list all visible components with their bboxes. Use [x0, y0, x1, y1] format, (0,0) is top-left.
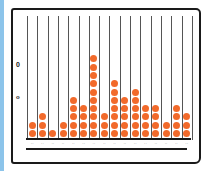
grid-line [182, 16, 183, 140]
data-dot [132, 105, 139, 112]
grid-line [151, 16, 152, 140]
grid-line [37, 16, 38, 140]
data-dot [29, 130, 36, 137]
data-dot [173, 130, 180, 137]
data-dot [90, 89, 97, 96]
grid-line [68, 16, 69, 140]
data-dot [183, 122, 190, 129]
grid-line [161, 16, 162, 140]
data-dot [101, 122, 108, 129]
data-dot [70, 130, 77, 137]
x-tick-label: ·· [59, 141, 68, 147]
data-dot [152, 122, 159, 129]
data-dot [60, 130, 67, 137]
y-axis-mark-upper: 0 [16, 61, 20, 68]
data-dot [70, 122, 77, 129]
x-tick-label: ·· [162, 141, 171, 147]
x-tick-label: ·· [89, 141, 98, 147]
data-dot [142, 122, 149, 129]
x-tick-label: ·· [131, 141, 140, 147]
data-dot [60, 122, 67, 129]
grid-line [171, 16, 172, 140]
data-dot [70, 97, 77, 104]
data-dot [132, 130, 139, 137]
data-dot [163, 122, 170, 129]
data-dot [111, 130, 118, 137]
x-tick-label: ·· [28, 141, 37, 147]
data-dot [111, 122, 118, 129]
grid-line [79, 16, 80, 140]
x-axis-baseline [26, 138, 191, 140]
x-tick-label: ·· [100, 141, 109, 147]
grid-line [120, 16, 121, 140]
grid-line [99, 16, 100, 140]
data-dot [111, 89, 118, 96]
data-dot [173, 105, 180, 112]
x-tick-label: ·· [69, 141, 78, 147]
data-dot [132, 89, 139, 96]
data-dot [142, 105, 149, 112]
grid-line [109, 16, 110, 140]
data-dot [163, 130, 170, 137]
grid-line [140, 16, 141, 140]
data-dot [39, 130, 46, 137]
data-dot [80, 122, 87, 129]
data-dot [39, 122, 46, 129]
x-tick-label: ·· [172, 141, 181, 147]
data-dot [70, 105, 77, 112]
grid-line [192, 16, 193, 140]
data-dot [29, 122, 36, 129]
x-tick-label: ·· [110, 141, 119, 147]
grid-line [58, 16, 59, 140]
x-tick-label: ·· [38, 141, 47, 147]
label-row-bottom-line [26, 148, 187, 150]
data-dot [132, 97, 139, 104]
x-tick-label: ·· [151, 141, 160, 147]
grid-line [27, 16, 28, 140]
data-dot [173, 122, 180, 129]
grid-line [130, 16, 131, 140]
x-tick-label: ·· [79, 141, 88, 147]
x-tick-label: ·· [182, 141, 191, 147]
x-tick-label: ·· [48, 141, 57, 147]
grid-line [89, 16, 90, 140]
y-axis-mark-lower: o [16, 94, 20, 100]
grid-line [48, 16, 49, 140]
data-dot [132, 122, 139, 129]
x-tick-label: ·· [141, 141, 150, 147]
data-dot [101, 130, 108, 137]
left-edge-border [0, 0, 4, 171]
data-dot [142, 130, 149, 137]
x-tick-label: ·· [120, 141, 129, 147]
data-dot [111, 97, 118, 104]
